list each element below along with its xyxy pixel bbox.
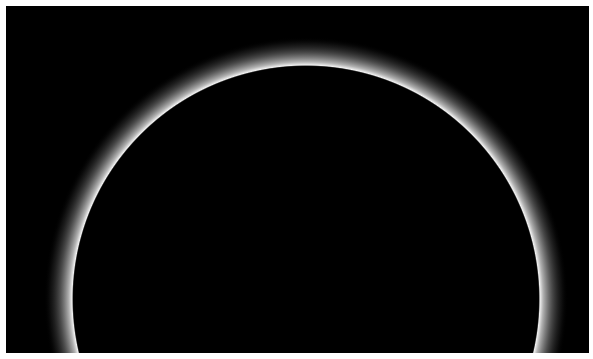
haze-ring-image <box>6 6 589 353</box>
photo-frame <box>6 6 589 353</box>
